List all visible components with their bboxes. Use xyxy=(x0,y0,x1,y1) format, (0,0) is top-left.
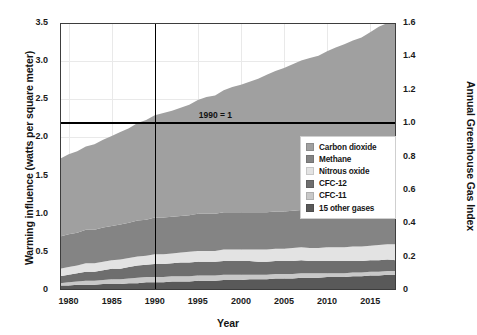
y-axis-left-ticks: 00.51.01.52.02.53.03.5 xyxy=(8,0,48,335)
legend-swatch-icon xyxy=(306,167,314,175)
legend-swatch-icon xyxy=(306,204,314,212)
legend-label: Nitrous oxide xyxy=(319,167,369,176)
legend-item: Carbon dioxide xyxy=(306,141,391,153)
legend-swatch-icon xyxy=(306,180,314,188)
legend-swatch-icon xyxy=(306,155,314,163)
legend-label: CFC-11 xyxy=(319,191,346,200)
y-tick-left-label: 3.5 xyxy=(8,17,48,27)
y-tick-left-label: 2.5 xyxy=(8,93,48,103)
x-axis-title: Year xyxy=(60,317,396,329)
legend-item: Methane xyxy=(306,153,391,165)
y-axis-right-title: Annual Greenhouse Gas Index xyxy=(465,41,477,271)
y-tick-right-label: 1.2 xyxy=(403,84,443,94)
y-tick-right-label: 0 xyxy=(403,284,443,294)
legend-item: CFC-12 xyxy=(306,178,391,190)
y-tick-right-label: 1.6 xyxy=(403,17,443,27)
legend-swatch-icon xyxy=(306,143,314,151)
legend-item: Nitrous oxide xyxy=(306,165,391,177)
x-tick-label: 1980 xyxy=(46,296,92,306)
legend-label: 15 other gases xyxy=(319,204,374,213)
reference-line-vertical xyxy=(155,23,157,290)
x-tick-label: 1990 xyxy=(132,296,178,306)
y-axis-right-ticks: 00.20.40.60.81.01.21.41.6 xyxy=(403,0,443,335)
y-tick-right-label: 0.2 xyxy=(403,251,443,261)
x-axis-ticks: 19801985199019952000200520102015 xyxy=(0,296,466,316)
reference-annotation-label: 1990 = 1 xyxy=(199,110,232,120)
legend-label: Methane xyxy=(319,155,351,164)
y-tick-left-label: 1.5 xyxy=(8,170,48,180)
y-tick-right-label: 0.6 xyxy=(403,184,443,194)
y-tick-left-label: 0.5 xyxy=(8,246,48,256)
legend: Carbon dioxideMethaneNitrous oxideCFC-12… xyxy=(300,136,396,219)
legend-swatch-icon xyxy=(306,192,314,200)
y-tick-left-label: 3.0 xyxy=(8,55,48,65)
y-tick-left-label: 2.0 xyxy=(8,131,48,141)
legend-label: Carbon dioxide xyxy=(319,143,377,152)
x-tick-label: 1995 xyxy=(175,296,221,306)
x-tick-label: 2015 xyxy=(347,296,393,306)
x-tick-label: 2010 xyxy=(304,296,350,306)
reference-line-horizontal xyxy=(60,122,396,124)
legend-item: 15 other gases xyxy=(306,202,391,214)
y-tick-left-label: 1.0 xyxy=(8,208,48,218)
y-tick-right-label: 1.0 xyxy=(403,117,443,127)
legend-item: CFC-11 xyxy=(306,190,391,202)
x-tick-label: 2000 xyxy=(218,296,264,306)
legend-label: CFC-12 xyxy=(319,179,347,188)
y-tick-left-label: 0 xyxy=(8,284,48,294)
y-tick-right-label: 1.4 xyxy=(403,50,443,60)
x-tick-label: 2005 xyxy=(261,296,307,306)
y-tick-right-label: 0.4 xyxy=(403,217,443,227)
y-tick-right-label: 0.8 xyxy=(403,151,443,161)
x-tick-label: 1985 xyxy=(89,296,135,306)
